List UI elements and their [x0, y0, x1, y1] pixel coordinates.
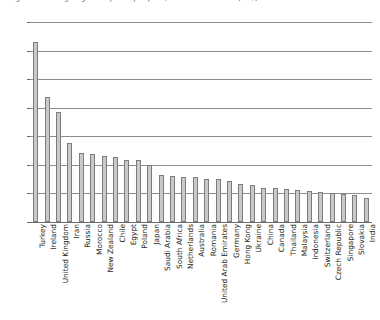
bar	[261, 188, 266, 222]
x-axis-label: United Arab Emirates	[221, 224, 228, 303]
x-axis-label: Thailand	[290, 224, 297, 256]
x-axis-label: Ukraine	[255, 224, 262, 253]
bar	[170, 176, 175, 222]
x-axis-label: Poland	[141, 224, 148, 249]
x-axis-label: Singapore	[347, 224, 354, 261]
bar	[136, 160, 141, 222]
x-axis-label: Turkey	[39, 224, 46, 248]
bar	[56, 112, 61, 222]
bar	[113, 157, 118, 222]
bar-chart-figure: Figure 3. Average cigarette prices per p…	[0, 0, 380, 320]
x-axis-label: South Africa	[176, 224, 183, 269]
x-axis-label: Japan	[153, 224, 160, 245]
bar	[33, 42, 38, 222]
x-axis-label: Russia	[84, 224, 91, 248]
x-axis-label: Indonesia	[312, 224, 319, 260]
bar	[216, 179, 221, 222]
bar	[238, 184, 243, 222]
plot-area: 00.511.522.533.5	[30, 22, 372, 222]
x-axis-label: Slovakia	[358, 224, 365, 255]
bar	[204, 179, 209, 222]
bar	[273, 188, 278, 222]
x-axis-labels: TurkeyIrelandUnited KingdomIranRussiaMor…	[30, 224, 372, 320]
x-axis-label: Malaysia	[301, 224, 308, 256]
bar	[364, 198, 369, 222]
bar	[295, 190, 300, 222]
bar	[284, 189, 289, 222]
x-axis-label: Czech Republic	[335, 224, 342, 280]
x-axis-label: Germany	[233, 224, 240, 258]
bar	[330, 193, 335, 222]
x-axis-label: Chile	[119, 224, 126, 243]
x-axis-label: Ireland	[50, 224, 57, 250]
bar	[307, 191, 312, 222]
x-axis-label: Egypt	[130, 224, 137, 245]
bar	[124, 160, 129, 222]
x-axis-label: Saudi Arabia	[164, 224, 171, 271]
bar	[159, 175, 164, 222]
x-axis-label: India	[369, 224, 376, 242]
x-axis-label: China	[267, 224, 274, 245]
x-axis-label: Romania	[210, 224, 217, 256]
bar	[318, 192, 323, 222]
x-axis-label: United Kingdom	[62, 224, 69, 283]
bar	[352, 195, 357, 222]
x-axis-label: Hong Kong	[244, 224, 251, 264]
bar	[147, 165, 152, 222]
y-axis-tick-mark	[27, 222, 30, 223]
x-axis-label: Canada	[278, 224, 285, 252]
bar	[250, 185, 255, 222]
bar	[341, 194, 346, 222]
x-axis-label: Australia	[198, 224, 205, 257]
x-axis-line	[30, 222, 372, 223]
bar	[79, 153, 84, 222]
bar	[102, 156, 107, 222]
bar	[181, 177, 186, 222]
x-axis-label: Morocco	[96, 224, 103, 255]
bar	[90, 154, 95, 222]
bar	[227, 181, 232, 222]
chart-title: Figure 3. Average cigarette prices per p…	[10, 0, 370, 3]
x-axis-label: New Zealand	[107, 224, 114, 273]
x-axis-label: Netherlands	[187, 224, 194, 269]
bars-layer	[30, 22, 372, 222]
x-axis-label: Switzerland	[324, 224, 331, 267]
bar	[67, 143, 72, 222]
x-axis-label: Iran	[73, 224, 80, 238]
bar	[45, 97, 50, 222]
bar	[193, 177, 198, 222]
